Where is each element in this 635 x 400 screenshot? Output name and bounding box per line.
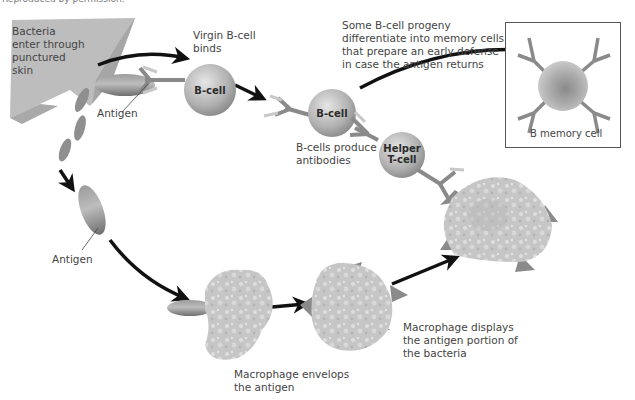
bcells-produce-label: B-cells produce antibodies xyxy=(296,141,377,167)
helper-tcell-label: Helper T-cell xyxy=(382,143,422,165)
macrophage-processing xyxy=(300,262,408,351)
bcell-label: B-cell xyxy=(314,108,350,119)
virgin-bcell-label: B-cell xyxy=(192,85,228,96)
macrophage-displaying xyxy=(440,177,558,272)
immune-response-diagram: Reproduced by permission. xyxy=(0,0,635,400)
macrophage-envelops-label: Macrophage envelops the antigen xyxy=(234,368,349,394)
antigen-label-left: Antigen xyxy=(52,253,93,266)
memory-note-label: Some B-cell progeny differentiate into m… xyxy=(342,19,504,71)
macrophage-displays-label: Macrophage displays the antigen portion … xyxy=(403,321,518,360)
antigen-label-top: Antigen xyxy=(97,107,138,120)
memory-cell-box: B memory cell xyxy=(505,22,621,148)
memory-cell-label: B memory cell xyxy=(530,127,602,140)
macrophage-enveloping xyxy=(167,270,273,360)
virgin-bcell-binds-label: Virgin B-cell binds xyxy=(193,29,256,55)
bacteria-entry-label: Bacteria enter through punctured skin xyxy=(12,25,85,77)
